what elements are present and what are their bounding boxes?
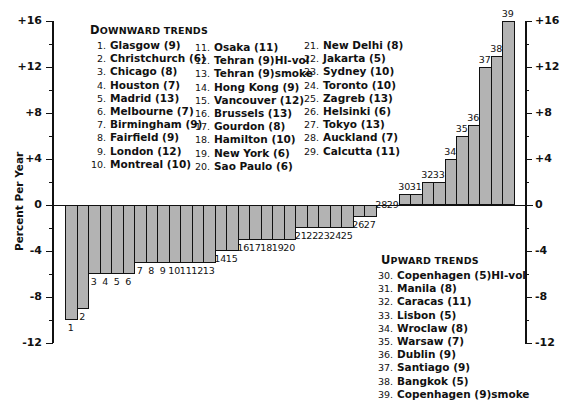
left-tick [46, 67, 53, 69]
left-tick [49, 182, 53, 184]
legend-item-number: 30. [377, 269, 393, 282]
legend-item: 18.Hamilton (10) [194, 133, 313, 146]
upward-legend-title: UPWARD TRENDS [381, 254, 479, 267]
legend-item-name: New Delhi (8) [323, 39, 403, 51]
left-tick [46, 297, 53, 299]
legend-item-number: 11. [194, 41, 210, 54]
legend-item: 23.Sydney (10) [303, 65, 403, 78]
legend-item-number: 17. [194, 120, 210, 133]
legend-item-name: Vancouver (12) [214, 94, 304, 106]
legend-item-number: 3. [90, 65, 106, 78]
left-tick [46, 251, 53, 253]
legend-item: 13.Tehran (9)smoke [194, 67, 313, 80]
right-tick [525, 21, 532, 23]
right-tick-label: -8 [535, 291, 547, 303]
legend-item-name: Tehran (9)smoke [214, 67, 313, 79]
legend-item: 36.Dublin (9) [377, 348, 530, 361]
legend-item: 26.Helsinki (6) [303, 105, 403, 118]
left-tick-label: +8 [8, 107, 42, 119]
legend-item-name: Copenhagen (5)HI-vol [397, 269, 526, 281]
legend-item: 7.Birmingham (9) [90, 118, 206, 131]
legend-item-number: 25. [303, 92, 319, 105]
legend-item-number: 21. [303, 39, 319, 52]
legend-item: 27.Tokyo (13) [303, 118, 403, 131]
legend-item-number: 27. [303, 118, 319, 131]
right-tick-label: -12 [535, 337, 555, 349]
legend-item: 21.New Delhi (8) [303, 39, 403, 52]
legend-item-number: 13. [194, 67, 210, 80]
legend-item-name: Madrid (13) [110, 92, 179, 104]
legend-item: 3.Chicago (8) [90, 65, 206, 78]
legend-item-name: Melbourne (7) [110, 105, 194, 117]
legend-item-number: 12. [194, 54, 210, 67]
bar-label-1: 1 [61, 323, 81, 333]
left-tick-label: +12 [8, 61, 42, 73]
bar-label-27: 27 [360, 220, 380, 230]
bar-39 [502, 21, 515, 205]
legend-item: 8.Fairfield (9) [90, 131, 206, 144]
legend-item-name: Montreal (10) [110, 158, 191, 170]
legend-item-name: Warsaw (7) [397, 335, 464, 347]
legend-item: 30.Copenhagen (5)HI-vol [377, 269, 530, 282]
left-tick-label: -8 [8, 291, 42, 303]
bar-label-25: 25 [337, 231, 357, 241]
legend-item-name: Hong Kong (9) [214, 81, 299, 93]
right-tick [525, 182, 529, 184]
legend-item-number: 33. [377, 309, 393, 322]
legend-item-number: 38. [377, 375, 393, 388]
legend-item-name: Sao Paulo (6) [214, 160, 293, 172]
legend-item: 39.Copenhagen (9)smoke [377, 388, 530, 401]
right-tick [525, 67, 532, 69]
right-tick [525, 228, 529, 230]
legend-item-number: 37. [377, 361, 393, 374]
legend-item-name: Helsinki (6) [323, 105, 391, 117]
bar-label-15: 15 [222, 254, 242, 264]
right-tick [525, 90, 529, 92]
legend-item-name: Jakarta (5) [323, 52, 386, 64]
legend-item-number: 32. [377, 295, 393, 308]
legend-item-name: London (12) [110, 145, 181, 157]
legend-item: 6.Melbourne (7) [90, 105, 206, 118]
legend-item-number: 39. [377, 388, 393, 401]
left-tick-label: 0 [8, 199, 42, 211]
left-tick [49, 90, 53, 92]
left-tick-label: +4 [8, 153, 42, 165]
right-tick-label: +12 [535, 61, 560, 73]
bar-label-6: 6 [119, 277, 139, 287]
legend-item-name: Copenhagen (9)smoke [397, 388, 530, 400]
legend-item: 20.Sao Paulo (6) [194, 160, 313, 173]
legend-item-name: Auckland (7) [323, 131, 398, 143]
legend-item-number: 23. [303, 65, 319, 78]
legend-item-name: Houston (7) [110, 79, 180, 91]
legend-item-number: 2. [90, 52, 106, 65]
legend-item: 9.London (12) [90, 145, 206, 158]
right-tick [525, 251, 532, 253]
left-tick [46, 343, 53, 345]
right-tick-label: -4 [535, 245, 547, 257]
legend-item: 5.Madrid (13) [90, 92, 206, 105]
legend-item-name: Zagreb (13) [323, 92, 393, 104]
legend-item-number: 14. [194, 81, 210, 94]
legend-item-number: 22. [303, 52, 319, 65]
left-tick-label: +16 [8, 15, 42, 27]
legend-item-name: Birmingham (9) [110, 118, 202, 130]
legend-item: 17.Gourdon (8) [194, 120, 313, 133]
downward-trends-legend: DOWNWARD TRENDS 1.Glasgow (9)2.Christchu… [90, 24, 208, 39]
legend-item: 24.Toronto (10) [303, 79, 403, 92]
legend-item-number: 16. [194, 107, 210, 120]
left-tick [49, 44, 53, 46]
legend-item-name: Santiago (9) [397, 361, 470, 373]
legend-item: 4.Houston (7) [90, 79, 206, 92]
legend-item-name: Sydney (10) [323, 65, 394, 77]
legend-item: 15.Vancouver (12) [194, 94, 313, 107]
legend-item-number: 1. [90, 39, 106, 52]
bar-label-13: 13 [199, 266, 219, 276]
right-tick [525, 159, 532, 161]
legend-item: 37.Santiago (9) [377, 361, 530, 374]
legend-item-number: 31. [377, 282, 393, 295]
downward-legend-title: DOWNWARD TRENDS [90, 24, 208, 37]
legend-item-number: 8. [90, 131, 106, 144]
legend-item: 10.Montreal (10) [90, 158, 206, 171]
left-tick [49, 228, 53, 230]
left-tick-label: -4 [8, 245, 42, 257]
